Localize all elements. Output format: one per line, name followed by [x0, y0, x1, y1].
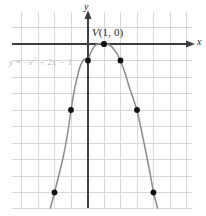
equation-equals: = −: [13, 57, 28, 67]
equation-label: y = −x2 + 2x − 1: [9, 58, 72, 67]
data-point-vertex: [101, 41, 107, 47]
data-point: [52, 190, 58, 196]
data-point: [151, 190, 157, 196]
vertex-label-prefix: V: [92, 26, 99, 38]
vertex-label: V(1, 0): [92, 27, 123, 38]
y-axis: [85, 10, 92, 208]
data-point: [68, 107, 74, 113]
axis-label-y: y: [84, 2, 88, 12]
equation-rest: + 2x − 1: [36, 57, 72, 67]
axis-label-x: x: [197, 37, 201, 47]
data-point: [85, 58, 91, 64]
data-point: [134, 107, 140, 113]
parabola-figure: V(1, 0) y = −x2 + 2x − 1 y x: [0, 0, 206, 216]
grid-lines-horizontal: [12, 28, 192, 209]
data-point: [118, 58, 124, 64]
vertex-label-value: (1, 0): [99, 26, 123, 38]
